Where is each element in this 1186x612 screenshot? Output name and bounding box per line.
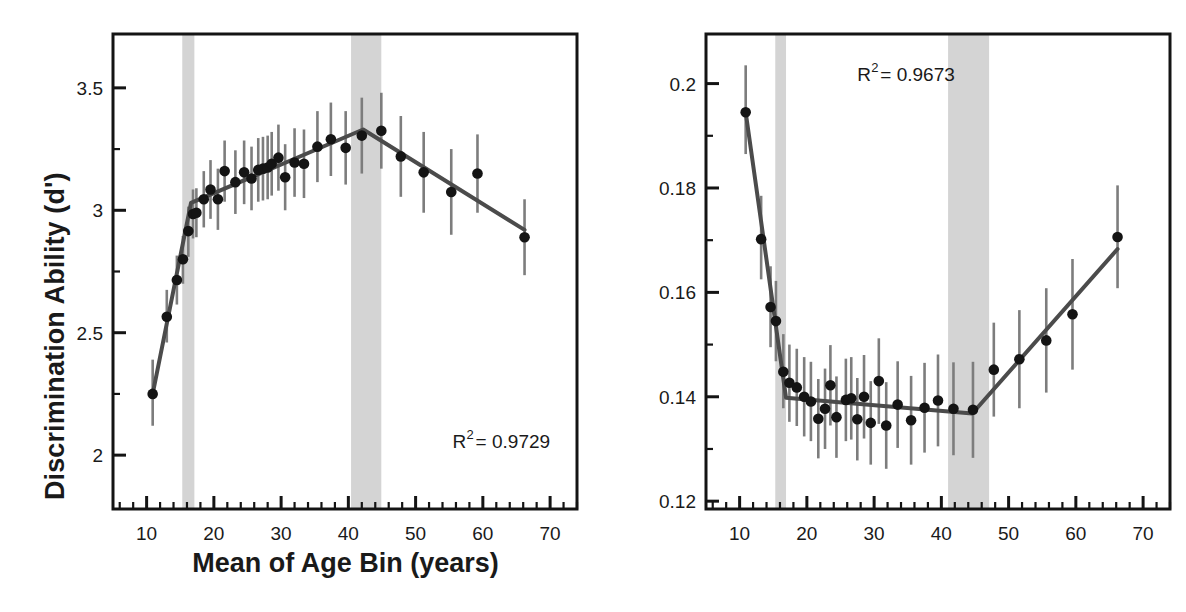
- y-tick-label: 0.14: [659, 387, 696, 408]
- y-tick-label: 0.2: [670, 74, 696, 95]
- data-point[interactable]: [205, 184, 216, 195]
- y-axis-ticks: 0.120.140.160.180.2: [659, 74, 719, 513]
- data-point[interactable]: [846, 393, 857, 404]
- data-point[interactable]: [881, 420, 892, 431]
- x-tick-label: 70: [540, 523, 561, 544]
- x-tick-label: 40: [338, 523, 359, 544]
- data-point[interactable]: [859, 391, 870, 402]
- r2-value: = 0.9673: [880, 64, 955, 85]
- data-point[interactable]: [198, 194, 209, 205]
- x-tick-label: 20: [796, 523, 817, 544]
- data-point[interactable]: [299, 158, 310, 169]
- data-point[interactable]: [213, 194, 224, 205]
- data-point[interactable]: [765, 302, 776, 313]
- data-point[interactable]: [933, 395, 944, 406]
- two-panel-figure: 1020304050607022.533.5R2= 0.9729 Discrim…: [0, 0, 1186, 612]
- error-bars-group: [153, 93, 525, 426]
- data-point[interactable]: [989, 364, 1000, 375]
- data-point[interactable]: [230, 177, 241, 188]
- data-point[interactable]: [820, 403, 831, 414]
- data-point[interactable]: [172, 275, 183, 286]
- y-tick-label: 2.5: [77, 323, 103, 344]
- fit-line: [746, 112, 1118, 413]
- data-point[interactable]: [865, 418, 876, 429]
- data-point[interactable]: [147, 389, 158, 400]
- x-tick-label: 10: [729, 523, 750, 544]
- x-tick-label: 50: [405, 523, 426, 544]
- data-point[interactable]: [771, 316, 782, 327]
- data-point[interactable]: [806, 396, 817, 407]
- data-point[interactable]: [874, 376, 885, 387]
- x-tick-label: 10: [136, 523, 157, 544]
- x-tick-label: 70: [1133, 523, 1154, 544]
- y-tick-label: 2: [92, 445, 103, 466]
- data-point[interactable]: [161, 311, 172, 322]
- data-point[interactable]: [740, 107, 751, 118]
- fit-line: [153, 129, 525, 393]
- data-point[interactable]: [791, 382, 802, 393]
- data-points-group: [740, 107, 1122, 431]
- data-point[interactable]: [246, 173, 257, 184]
- data-point[interactable]: [396, 151, 407, 162]
- x-tick-label: 50: [998, 523, 1019, 544]
- data-point[interactable]: [778, 366, 789, 377]
- x-axis-label-left: Mean of Age Bin (years): [113, 548, 578, 579]
- r2-superscript: 2: [467, 427, 474, 442]
- data-point[interactable]: [446, 187, 457, 198]
- y-axis-label-left: Discrimination Ability (d'): [40, 172, 71, 500]
- data-point[interactable]: [825, 380, 836, 391]
- x-tick-label: 60: [1065, 523, 1086, 544]
- data-point[interactable]: [178, 254, 189, 265]
- data-point[interactable]: [312, 141, 323, 152]
- data-point[interactable]: [968, 405, 979, 416]
- r2-prefix: R: [857, 64, 871, 85]
- data-point[interactable]: [273, 152, 284, 163]
- data-point[interactable]: [1014, 354, 1025, 365]
- data-point[interactable]: [472, 168, 483, 179]
- r2-superscript: 2: [871, 60, 878, 75]
- x-tick-label: 40: [931, 523, 952, 544]
- r2-annotation: R2= 0.9673: [857, 60, 955, 85]
- r2-prefix: R: [453, 431, 467, 452]
- data-point[interactable]: [919, 402, 930, 413]
- data-point[interactable]: [340, 143, 351, 154]
- data-point[interactable]: [191, 207, 202, 218]
- reaction-time-variability-plot: 102030405060700.120.140.160.180.2R2= 0.9…: [593, 0, 1186, 612]
- y-axis-ticks: 22.533.5: [77, 78, 126, 466]
- data-points-group: [147, 125, 529, 399]
- x-tick-label: 30: [864, 523, 885, 544]
- data-point[interactable]: [813, 413, 824, 424]
- x-tick-label: 30: [271, 523, 292, 544]
- data-point[interactable]: [418, 167, 429, 178]
- data-point[interactable]: [906, 415, 917, 426]
- data-point[interactable]: [326, 134, 337, 145]
- y-tick-label: 0.16: [659, 282, 696, 303]
- x-tick-label: 60: [472, 523, 493, 544]
- data-point[interactable]: [1067, 309, 1078, 320]
- data-point[interactable]: [831, 412, 842, 423]
- x-tick-label: 20: [203, 523, 224, 544]
- y-tick-label: 0.18: [659, 178, 696, 199]
- data-point[interactable]: [289, 157, 300, 168]
- data-point[interactable]: [519, 232, 530, 243]
- data-point[interactable]: [1041, 335, 1052, 346]
- discrimination-ability-plot: 1020304050607022.533.5R2= 0.9729: [0, 0, 593, 612]
- data-point[interactable]: [948, 403, 959, 414]
- y-tick-label: 3: [92, 200, 103, 221]
- panel-discrimination-ability: 1020304050607022.533.5R2= 0.9729 Discrim…: [0, 0, 593, 612]
- data-point[interactable]: [280, 172, 291, 183]
- y-tick-label: 3.5: [77, 78, 103, 99]
- data-point[interactable]: [852, 414, 863, 425]
- r2-annotation: R2= 0.9729: [453, 427, 551, 452]
- data-point[interactable]: [183, 226, 194, 237]
- y-tick-label: 0.12: [659, 491, 696, 512]
- data-point[interactable]: [376, 125, 387, 136]
- data-point[interactable]: [1112, 232, 1123, 243]
- shaded-band: [775, 34, 786, 509]
- data-point[interactable]: [892, 399, 903, 410]
- shaded-band: [351, 34, 381, 509]
- data-point[interactable]: [756, 234, 767, 245]
- shaded-bands-group: [182, 34, 381, 509]
- data-point[interactable]: [219, 166, 230, 177]
- data-point[interactable]: [357, 130, 368, 141]
